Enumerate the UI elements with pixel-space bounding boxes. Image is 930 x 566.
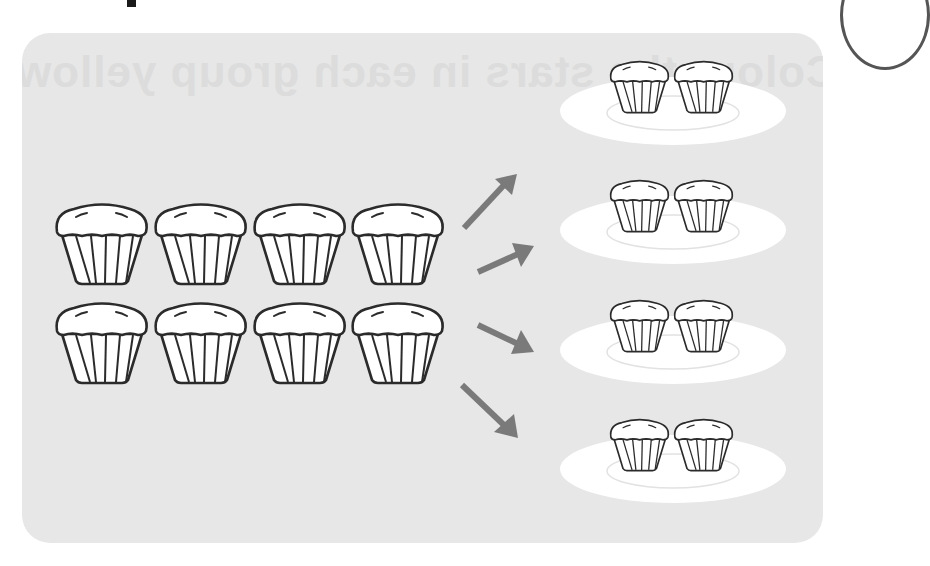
arrow-down-right-icon — [462, 385, 518, 438]
distribution-arrows — [462, 174, 534, 438]
muffin-icon — [57, 304, 147, 384]
muffin-icon — [353, 205, 443, 285]
arrow-up-right-icon — [464, 174, 517, 228]
plate-2 — [560, 181, 786, 264]
muffin-icon — [156, 304, 246, 384]
muffin-icon — [156, 205, 246, 285]
plates — [560, 62, 786, 503]
muffin-icon — [57, 205, 147, 285]
plate-1 — [560, 62, 786, 145]
plate-3 — [560, 301, 786, 384]
plate-4 — [560, 420, 786, 503]
arrow-right-down-icon — [478, 325, 534, 354]
muffin-icon — [353, 304, 443, 384]
arrow-right-up-icon — [478, 243, 534, 272]
source-muffins — [57, 205, 443, 384]
muffin-icon — [255, 304, 345, 384]
muffin-icon — [255, 205, 345, 285]
